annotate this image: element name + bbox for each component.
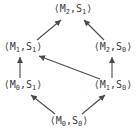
label-part-pre: ⟨M <box>50 115 62 126</box>
label-part-mid: ,S <box>110 79 122 90</box>
node-m1-s1: ⟨M1,S1⟩ <box>4 42 43 54</box>
hasse-diagram: ⟨M2,S1⟩ ⟨M1,S1⟩ ⟨M2,S0⟩ ⟨M0,S1⟩ ⟨M1,S0⟩ … <box>0 0 139 137</box>
label-part-post: ⟩ <box>36 41 42 52</box>
label-part-post: ⟩ <box>82 115 88 126</box>
label-part-pre: ⟨M <box>4 41 16 52</box>
node-m2-s1: ⟨M2,S1⟩ <box>54 4 93 16</box>
label-part-pre: ⟨M <box>94 41 106 52</box>
node-m0-s0: ⟨M0,S0⟩ <box>50 116 89 128</box>
label-part-pre: ⟨M <box>94 79 106 90</box>
label-part-pre: ⟨M <box>4 79 16 90</box>
arrow-m0s0-to-m0s1 <box>31 95 55 114</box>
label-part-mid: ,S <box>20 79 32 90</box>
label-part-mid: ,S <box>70 3 82 14</box>
node-m1-s0: ⟨M1,S0⟩ <box>94 80 133 92</box>
arrow-m1s1-to-m2s1 <box>37 20 61 40</box>
label-part-post: ⟩ <box>126 41 132 52</box>
arrow-m1s0-to-m1s1 <box>39 56 100 79</box>
label-part-post: ⟩ <box>126 79 132 90</box>
arrow-m2s0-to-m2s1 <box>84 20 104 40</box>
label-part-mid: ,S <box>20 41 32 52</box>
arrow-m0s0-to-m1s0 <box>82 95 105 114</box>
label-part-mid: ,S <box>110 41 122 52</box>
label-part-pre: ⟨M <box>54 3 66 14</box>
label-part-mid: ,S <box>66 115 78 126</box>
node-m0-s1: ⟨M0,S1⟩ <box>4 80 43 92</box>
node-m2-s0: ⟨M2,S0⟩ <box>94 42 133 54</box>
label-part-post: ⟩ <box>86 3 92 14</box>
label-part-post: ⟩ <box>36 79 42 90</box>
